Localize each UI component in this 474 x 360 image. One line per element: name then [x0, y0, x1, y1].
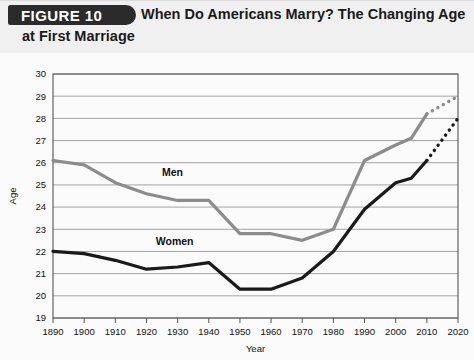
y-axis-title: Age — [7, 188, 18, 205]
x-axis-tick-label: 1950 — [229, 326, 250, 337]
series-line-men-projected — [427, 96, 458, 114]
y-axis-tick-label: 26 — [35, 157, 46, 168]
figure-number-badge: FIGURE 10 — [8, 5, 136, 25]
x-axis-tick-label: 1970 — [292, 326, 313, 337]
line-chart: 1920212223242526272829301890190019101920… — [0, 52, 474, 360]
series-label-women: Women — [156, 235, 194, 247]
y-axis-tick-label: 23 — [35, 224, 46, 235]
figure-title-line-1: When Do Americans Marry? The Changing Ag… — [141, 4, 466, 24]
x-axis-tick-label: 1920 — [136, 326, 157, 337]
x-axis-tick-label: 2010 — [416, 326, 437, 337]
chart-area: 1920212223242526272829301890190019101920… — [0, 52, 474, 360]
figure-container: FIGURE 10 When Do Americans Marry? The C… — [0, 0, 474, 360]
y-axis-tick-label: 19 — [35, 312, 46, 323]
y-axis-tick-label: 29 — [35, 91, 46, 102]
x-axis-title: Year — [246, 343, 265, 354]
x-axis-tick-label: 1930 — [167, 326, 188, 337]
y-axis-tick-label: 25 — [35, 179, 46, 190]
plot-frame — [53, 74, 458, 318]
x-axis-tick-label: 1990 — [354, 326, 375, 337]
y-axis-tick-label: 28 — [35, 113, 46, 124]
y-axis-tick-label: 20 — [35, 290, 46, 301]
figure-header: FIGURE 10 When Do Americans Marry? The C… — [0, 0, 474, 53]
x-axis-tick-label: 2020 — [447, 326, 468, 337]
y-axis-tick-label: 21 — [35, 268, 46, 279]
x-axis-tick-label: 1960 — [261, 326, 282, 337]
x-axis-tick-label: 1910 — [105, 326, 126, 337]
x-axis-tick-label: 2000 — [385, 326, 406, 337]
series-line-women-projected — [427, 118, 458, 160]
x-axis-tick-label: 1980 — [323, 326, 344, 337]
y-axis-tick-label: 30 — [35, 68, 46, 79]
x-axis-tick-label: 1900 — [74, 326, 95, 337]
x-axis-tick-label: 1940 — [198, 326, 219, 337]
series-line-men — [53, 114, 427, 240]
x-axis-tick-label: 1890 — [42, 326, 63, 337]
series-label-men: Men — [162, 166, 183, 178]
y-axis-tick-label: 24 — [35, 201, 46, 212]
figure-title-line-2: at First Marriage — [22, 26, 135, 46]
y-axis-tick-label: 22 — [35, 246, 46, 257]
y-axis-tick-label: 27 — [35, 135, 46, 146]
